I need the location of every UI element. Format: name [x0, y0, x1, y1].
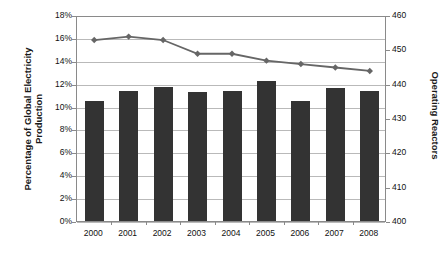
y-axis-left-tick-label: 12%	[38, 80, 72, 89]
line-marker	[263, 57, 269, 63]
line-marker	[298, 61, 304, 67]
y-axis-left-tick-label: 16%	[38, 34, 72, 43]
y-axis-right-tick-label: 410	[392, 183, 426, 192]
y-axis-right-tick-label: 460	[392, 11, 426, 20]
y-axis-right-tick-label: 440	[392, 80, 426, 89]
x-axis-tickmark	[353, 221, 354, 225]
y-axis-right-tick-label: 420	[392, 148, 426, 157]
gridline	[77, 222, 385, 223]
y-axis-right-tick-label: 400	[392, 217, 426, 226]
y-axis-left-tick-label: 10%	[38, 103, 72, 112]
y-axis-left-tickmark	[72, 222, 76, 223]
line-marker	[367, 68, 373, 74]
x-axis-tickmark	[180, 221, 181, 225]
line-marker	[229, 51, 235, 57]
x-axis-tickmark	[111, 221, 112, 225]
y-axis-right-tickmark	[386, 222, 390, 223]
y-axis-right-title: Operating Reactors	[430, 46, 441, 186]
line-marker	[332, 64, 338, 70]
y-axis-right-tick-label: 450	[392, 45, 426, 54]
line-marker	[160, 37, 166, 43]
line-marker	[125, 33, 131, 39]
plot-area	[76, 16, 386, 222]
x-axis-tick-label: 2008	[349, 228, 389, 238]
x-axis-tickmark	[318, 221, 319, 225]
x-axis-tickmark	[146, 221, 147, 225]
y-axis-left-tick-label: 6%	[38, 148, 72, 157]
x-axis-tickmark	[284, 221, 285, 225]
y-axis-left-tick-label: 2%	[38, 194, 72, 203]
chart-container: Percentage of Global Electricity Product…	[0, 0, 446, 255]
y-axis-left-tick-label: 4%	[38, 171, 72, 180]
y-axis-right-tick-label: 430	[392, 114, 426, 123]
x-axis-tickmark	[249, 221, 250, 225]
y-axis-left-tick-label: 8%	[38, 125, 72, 134]
x-axis-tickmark	[215, 221, 216, 225]
line-series	[77, 16, 387, 222]
y-axis-left-tick-label: 14%	[38, 57, 72, 66]
y-axis-left-tick-label: 0%	[38, 217, 72, 226]
line-marker	[91, 37, 97, 43]
y-axis-left-tick-label: 18%	[38, 11, 72, 20]
line-marker	[194, 51, 200, 57]
